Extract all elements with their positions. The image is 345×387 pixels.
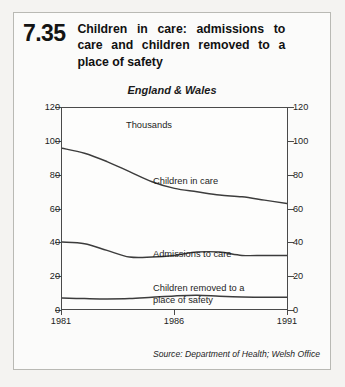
ytick-left-120: 120 [20,103,60,112]
annotation-children-in-care: Children in care [153,175,218,187]
annotation-thousands: Thousands [126,119,172,131]
figure-header: 7.35 Children in care: admissions to car… [13,12,331,74]
xtick-1986: 1986 [149,317,199,326]
annotation-admissions-to-care: Admissions to care [153,248,232,260]
source-note: Source: Department of Health; Welsh Offi… [153,349,320,359]
ytick-right-120: 120 [293,103,333,112]
figure-container: 7.35 Children in care: admissions to car… [0,0,345,387]
series-lines [62,108,287,309]
chart-area: England & Wales 120 100 80 60 40 20 0 12… [13,74,331,370]
tickmark-bottom-1986 [174,310,175,315]
ytick-right-80: 80 [293,171,333,180]
figure-number: 7.35 [23,21,65,45]
ytick-right-100: 100 [293,137,333,146]
ytick-left-100: 100 [20,137,60,146]
figure-title: Children in care: admissions to care and… [77,21,285,70]
ytick-left-40: 40 [20,238,60,247]
ytick-right-20: 20 [293,272,333,281]
chart-subtitle: England & Wales [13,84,331,96]
annotation-removed-to-safety: Children removed to a place of safety [153,282,244,306]
ytick-left-0: 0 [20,306,60,315]
tickmark-bottom-1981 [61,310,62,315]
ytick-right-60: 60 [293,205,333,214]
ytick-right-40: 40 [293,238,333,247]
ytick-right-0: 0 [293,306,333,315]
ytick-left-60: 60 [20,205,60,214]
ytick-left-20: 20 [20,272,60,281]
plot-frame [61,107,288,310]
xtick-1991: 1991 [262,317,312,326]
tickmark-bottom-1991 [287,310,288,315]
ytick-left-80: 80 [20,171,60,180]
xtick-1981: 1981 [36,317,86,326]
